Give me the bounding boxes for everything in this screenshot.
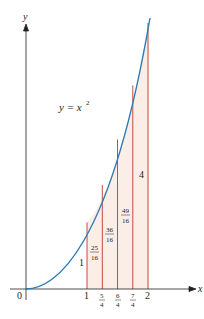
height-36-16-num: 36: [106, 226, 114, 234]
origin-label: 0: [17, 290, 22, 301]
tick-label-1: 1: [84, 290, 89, 301]
height-49-16-num: 49: [122, 207, 130, 215]
height-label-4: 4: [139, 169, 144, 180]
x-axis-label: x: [197, 283, 203, 294]
tick-7-4-num: 7: [131, 292, 135, 300]
tick-5-4-den: 4: [100, 301, 104, 309]
tick-7-4-den: 4: [131, 301, 135, 309]
height-label-1: 1: [79, 257, 84, 268]
height-25-16-den: 16: [91, 254, 99, 262]
y-axis-label: y: [22, 11, 28, 22]
height-36-16-den: 16: [106, 236, 114, 244]
x-axis-arrow-icon: [189, 287, 196, 292]
function-exponent: 2: [86, 99, 90, 107]
tick-6-4-num: 6: [116, 292, 120, 300]
function-label: y = x: [58, 101, 82, 113]
height-25-16-num: 25: [91, 244, 99, 252]
tick-label-7-4: 7 4: [130, 292, 136, 309]
tick-5-4-num: 5: [100, 292, 104, 300]
riemann-sum-figure: y x 0 y = x 2 1 5 4 6 4 7 4 2 1 25 16 36…: [0, 0, 204, 319]
height-49-16-den: 16: [122, 217, 130, 225]
tick-label-5-4: 5 4: [99, 292, 105, 309]
tick-label-6-4: 6 4: [115, 292, 121, 309]
tick-label-2: 2: [145, 290, 150, 301]
y-axis-arrow-icon: [24, 24, 29, 31]
tick-6-4-den: 4: [116, 301, 120, 309]
